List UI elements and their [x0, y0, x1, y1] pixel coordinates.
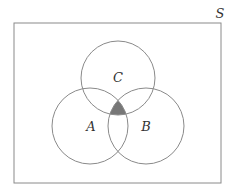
venn-diagram: S C A B	[0, 0, 236, 192]
universe-label: S	[216, 6, 225, 21]
set-c-label: C	[113, 70, 123, 85]
set-b-label: B	[140, 119, 151, 134]
set-a-label: A	[85, 119, 95, 134]
